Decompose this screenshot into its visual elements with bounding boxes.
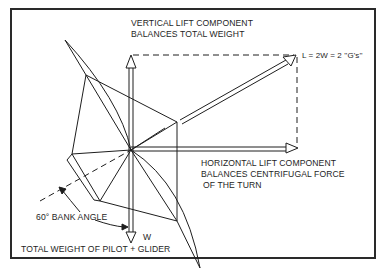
- glider-sail-upper: [65, 40, 177, 221]
- force-diagram: [0, 0, 387, 278]
- total-lift-arrow: [180, 55, 296, 124]
- horizontal-lift-arrow: [131, 143, 298, 153]
- horizontal-component-label-line1: HORIZONTAL LIFT COMPONENT: [201, 158, 336, 169]
- lift-formula-label: L = 2W = 2 ''G's'': [302, 51, 363, 62]
- vertical-component-label-line1: VERTICAL LIFT COMPONENT: [131, 18, 253, 29]
- weight-arrow: [126, 150, 136, 243]
- vertical-component-label-line2: BALANCES TOTAL WEIGHT: [131, 29, 245, 40]
- horizontal-component-label-line2: BALANCES CENTRIFUGAL FORCE: [201, 169, 345, 180]
- bank-angle-label: 60° BANK ANGLE: [36, 212, 107, 223]
- glider-control-frame: [67, 150, 177, 221]
- weight-symbol-label: W: [143, 232, 151, 243]
- horizontal-component-label-line3: OF THE TURN: [203, 180, 262, 191]
- weight-caption-label: TOTAL WEIGHT OF PILOT + GLIDER: [21, 244, 170, 255]
